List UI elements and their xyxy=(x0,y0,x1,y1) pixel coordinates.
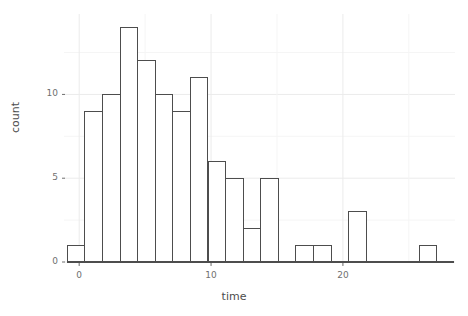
histogram-bar xyxy=(349,212,367,262)
histogram-bar xyxy=(261,178,279,262)
x-tick-label: 0 xyxy=(66,270,92,280)
y-tick-label: 5 xyxy=(32,172,58,182)
y-axis-title: count xyxy=(9,73,22,133)
y-tick-label: 0 xyxy=(32,256,58,266)
histogram-bar xyxy=(67,245,85,262)
histogram-bar xyxy=(226,178,244,262)
histogram-bar xyxy=(103,94,121,262)
x-axis-title: time xyxy=(0,290,468,303)
histogram-bar xyxy=(243,228,261,262)
y-tick-label: 10 xyxy=(32,88,58,98)
histogram-bar xyxy=(190,78,208,262)
histogram-chart: count time 051001020 xyxy=(0,0,468,316)
histogram-bar xyxy=(120,27,138,262)
histogram-bar xyxy=(173,111,191,262)
x-tick-label: 20 xyxy=(330,270,356,280)
histogram-bar xyxy=(155,94,173,262)
histogram-bar xyxy=(314,245,332,262)
histogram-bar xyxy=(296,245,314,262)
plot-area xyxy=(0,0,468,316)
x-tick-label: 10 xyxy=(198,270,224,280)
histogram-bar xyxy=(85,111,103,262)
histogram-bar xyxy=(208,161,226,262)
histogram-bar xyxy=(419,245,437,262)
histogram-bar xyxy=(138,61,156,262)
